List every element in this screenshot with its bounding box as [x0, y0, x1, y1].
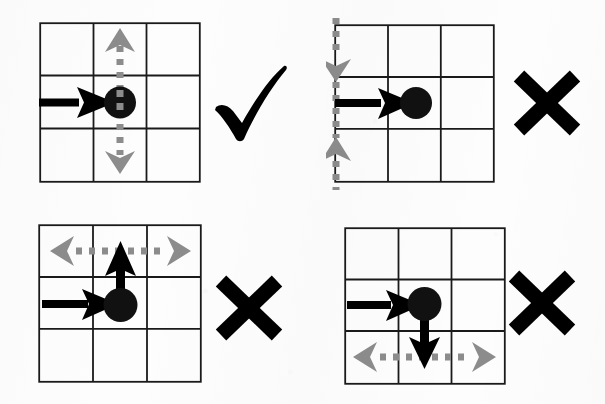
verdict-cross-top-right — [512, 70, 582, 136]
figure-canvas: ✔ ✖ ✖ ✖ — [0, 0, 605, 404]
check-icon — [212, 60, 290, 144]
panel-top-left-diagram — [39, 22, 201, 183]
cross-icon — [507, 270, 577, 336]
cross-icon — [214, 275, 284, 341]
panel-bottom-left-diagram — [30, 216, 210, 391]
constraint-arrowhead-right — [167, 236, 191, 266]
constraint-arrowhead-left — [50, 236, 74, 266]
constraint-arrowhead-up — [326, 137, 351, 161]
agent-dot — [400, 87, 432, 119]
panel-bottom-right — [344, 227, 506, 385]
incoming-action-arrow — [39, 87, 115, 118]
panel-top-right — [334, 24, 495, 183]
verdict-cross-bottom-left — [214, 275, 284, 341]
verdict-cross-bottom-right — [507, 270, 577, 336]
agent-dot — [408, 287, 442, 321]
panel-bottom-left — [38, 224, 202, 383]
constraint-arrowhead-left — [353, 342, 377, 372]
verdict-check-top-left — [212, 60, 290, 144]
agent-dot — [104, 288, 138, 322]
constraint-arrowhead-right — [472, 342, 496, 372]
constraint-arrowhead-down — [326, 59, 351, 82]
cross-icon — [512, 70, 582, 136]
panel-bottom-right-diagram — [336, 219, 514, 393]
panel-top-right-diagram — [326, 16, 501, 191]
panel-top-left — [39, 22, 201, 183]
